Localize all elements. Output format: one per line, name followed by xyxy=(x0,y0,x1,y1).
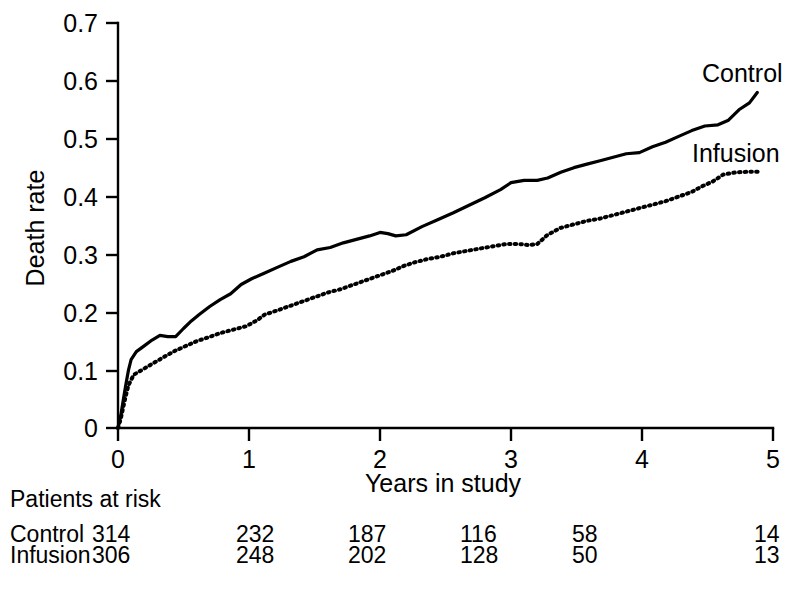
series-line-control xyxy=(118,92,757,428)
table-row: Infusion 306 248 202 128 50 13 xyxy=(10,542,780,568)
y-axis: 0.7 0.6 0.5 0.4 0.3 0.2 0.1 0 Death rate xyxy=(21,9,118,442)
risk-row-label-infusion: Infusion xyxy=(10,542,91,568)
y-tick-label: 0.7 xyxy=(63,9,98,37)
y-axis-tick-labels: 0.7 0.6 0.5 0.4 0.3 0.2 0.1 0 xyxy=(63,9,98,442)
series-label-control: Control xyxy=(702,59,783,87)
risk-cell: 202 xyxy=(348,542,386,568)
x-tick-label: 1 xyxy=(242,445,256,473)
x-axis: 0 1 2 3 4 5 Years in study xyxy=(111,428,780,497)
survival-curve-figure: 0.7 0.6 0.5 0.4 0.3 0.2 0.1 0 Death rate xyxy=(0,0,791,590)
risk-cell: 50 xyxy=(572,542,598,568)
patients-at-risk-table: Patients at risk Control 314 232 187 116… xyxy=(10,486,780,568)
y-axis-ticks xyxy=(106,23,118,428)
risk-table-heading: Patients at risk xyxy=(10,486,161,512)
x-tick-label: 4 xyxy=(635,445,649,473)
y-axis-title: Death rate xyxy=(21,170,49,287)
risk-cell: 128 xyxy=(460,542,498,568)
x-tick-label: 0 xyxy=(111,445,125,473)
y-tick-label: 0.2 xyxy=(63,299,98,327)
y-tick-label: 0.6 xyxy=(63,67,98,95)
x-tick-label: 5 xyxy=(766,445,780,473)
x-axis-ticks xyxy=(118,428,773,441)
risk-cell: 13 xyxy=(754,542,780,568)
y-tick-label: 0.3 xyxy=(63,241,98,269)
y-tick-label: 0 xyxy=(84,414,98,442)
chart-canvas: 0.7 0.6 0.5 0.4 0.3 0.2 0.1 0 Death rate xyxy=(0,0,791,590)
risk-cell: 306 xyxy=(92,542,130,568)
series-label-infusion: Infusion xyxy=(692,139,780,167)
y-tick-label: 0.4 xyxy=(63,183,98,211)
x-axis-title: Years in study xyxy=(365,469,522,497)
y-tick-label: 0.5 xyxy=(63,125,98,153)
series-line-infusion xyxy=(118,172,760,428)
y-tick-label: 0.1 xyxy=(63,357,98,385)
data-series-group xyxy=(118,92,760,428)
risk-cell: 248 xyxy=(236,542,274,568)
